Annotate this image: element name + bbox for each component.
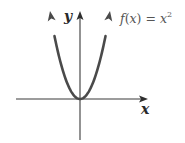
curve-left-arrow-icon [48, 11, 56, 22]
function-exponent: 2 [167, 10, 172, 19]
x-axis-label: x [141, 102, 149, 116]
curve-right-arrow-icon [104, 11, 112, 22]
function-arg: x [130, 11, 137, 26]
equals-sign: = [141, 11, 159, 26]
y-axis-label: y [64, 9, 72, 23]
function-base: x [160, 11, 167, 26]
function-label: f(x) = x2 [120, 13, 172, 26]
